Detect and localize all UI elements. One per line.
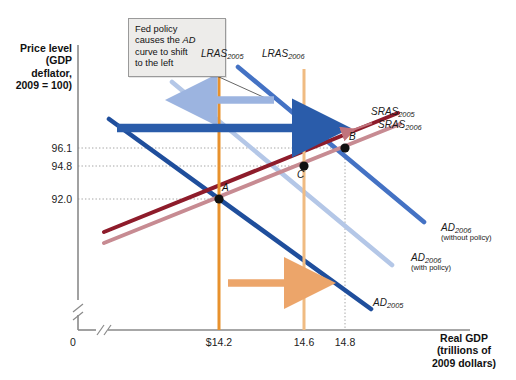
point-label-c: C bbox=[297, 169, 304, 180]
y-axis-title-line-4: 2009 = 100) bbox=[8, 79, 72, 91]
curve-label-sras-2005-sub: 2005 bbox=[398, 110, 414, 119]
equilibrium-point-a bbox=[214, 194, 223, 203]
callout-line-4: to the left bbox=[135, 58, 219, 69]
callout-line-1: Fed policy bbox=[135, 24, 219, 35]
equilibrium-point-b bbox=[340, 143, 349, 152]
curve-label-lras-2006: LRAS2006 bbox=[262, 48, 305, 59]
curve-label-lras-2005: LRAS2005 bbox=[201, 48, 244, 59]
curve-label-ad-2006-with-base: AD bbox=[411, 252, 425, 263]
curve-label-ad-2006-without-policy: AD2006 (without policy) bbox=[441, 222, 492, 242]
y-axis-title-line-1: Price level bbox=[8, 42, 72, 54]
axis-lines bbox=[78, 45, 470, 330]
curve-label-ad-2005: AD2005 bbox=[373, 297, 403, 308]
x-tick-label-14-8: 14.8 bbox=[325, 336, 365, 348]
y-axis-title: Price level (GDP deflator, 2009 = 100) bbox=[8, 42, 72, 92]
curve-label-lras-2005-base: LRAS bbox=[201, 48, 227, 59]
chart-canvas bbox=[0, 0, 516, 380]
curve-label-sras-2005: SRAS2005 bbox=[371, 106, 415, 117]
callout-line-2-emph: AD bbox=[183, 35, 196, 45]
macro-ad-as-figure: Price level (GDP deflator, 2009 = 100) R… bbox=[0, 0, 516, 380]
x-axis-title-line-3: 2009 dollars) bbox=[414, 357, 514, 369]
y-axis-title-line-2: (GDP bbox=[8, 54, 72, 66]
curve-label-sras-2006: SRAS2006 bbox=[378, 119, 422, 130]
x-axis-title: Real GDP (trillions of 2009 dollars) bbox=[414, 332, 514, 369]
y-tick-label-94-8: 94.8 bbox=[32, 160, 72, 172]
curve-label-ad-2006-with-sub: 2006 bbox=[425, 256, 441, 265]
y-tick-label-92-0: 92.0 bbox=[32, 193, 72, 205]
curve-label-lras-2005-sub: 2005 bbox=[227, 52, 243, 61]
x-tick-label-14-2: $14.2 bbox=[194, 336, 244, 348]
curve-label-ad-2005-sub: 2005 bbox=[387, 301, 403, 310]
origin-label: 0 bbox=[70, 336, 76, 348]
x-tick-label-14-6: 14.6 bbox=[284, 336, 324, 348]
point-label-b: B bbox=[349, 131, 356, 142]
curve-label-lras-2006-base: LRAS bbox=[262, 48, 288, 59]
curve-label-sras-2006-base: SRAS bbox=[378, 119, 405, 130]
x-axis-title-line-1: Real GDP bbox=[414, 332, 514, 344]
curve-label-ad-2005-base: AD bbox=[373, 297, 387, 308]
curve-label-sras-2006-sub: 2006 bbox=[405, 123, 421, 132]
y-axis-title-line-3: deflator, bbox=[8, 67, 72, 79]
y-tick-label-96-1: 96.1 bbox=[32, 142, 72, 154]
curve-label-sras-2005-base: SRAS bbox=[371, 106, 398, 117]
callout-line-2-text: causes the bbox=[135, 35, 183, 45]
callout-line-2: causes the AD bbox=[135, 35, 219, 46]
curve-label-ad-2006-without-sub: 2006 bbox=[455, 226, 471, 235]
curve-label-ad-2006-without-base: AD bbox=[441, 222, 455, 233]
curve-ad-2006-without-policy bbox=[238, 67, 424, 222]
curve-label-lras-2006-sub: 2006 bbox=[288, 52, 304, 61]
curve-label-ad-2006-with-policy: AD2006 (with policy) bbox=[411, 252, 451, 272]
x-axis-title-line-2: (trillions of bbox=[414, 344, 514, 356]
point-label-a: A bbox=[222, 182, 229, 193]
